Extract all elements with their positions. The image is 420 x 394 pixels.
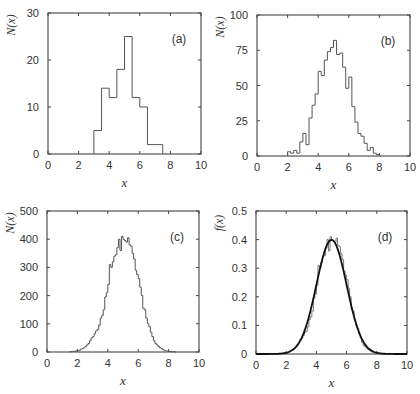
x-tick-label: 6 [344, 359, 350, 371]
y-tick-label: 0.3 [232, 262, 247, 274]
y-tick-label: 20 [27, 54, 39, 66]
panel-label: (a) [172, 32, 187, 46]
x-tick-label: 10 [401, 359, 413, 371]
x-tick-label: 4 [315, 161, 321, 173]
x-tick-label: 6 [346, 161, 352, 173]
y-tick-label: 0 [241, 348, 247, 360]
y-tick-label: 0.1 [232, 319, 247, 331]
x-tick-label: 0 [254, 161, 260, 173]
y-tick-label: 75 [236, 44, 248, 56]
panel-label: (c) [170, 230, 184, 244]
y-tick-label: 0 [32, 346, 38, 358]
x-tick-label: 0 [45, 159, 51, 171]
x-tick-label: 4 [106, 159, 112, 171]
x-tick-label: 2 [283, 359, 289, 371]
panel-d: 024681000.10.20.30.40.5xf(x)(d) [212, 205, 413, 390]
histogram-series [70, 236, 176, 352]
x-tick-label: 6 [135, 357, 141, 369]
x-tick-label: 2 [74, 357, 80, 369]
panel-a: 02468100102030xN(x)(a) [4, 7, 207, 190]
x-tick-label: 8 [167, 159, 173, 171]
y-tick-label: 0.2 [232, 291, 247, 303]
y-tick-label: 100 [20, 318, 38, 330]
x-tick-label: 8 [374, 359, 380, 371]
y-tick-label: 30 [27, 7, 39, 19]
y-tick-label: 300 [20, 261, 38, 273]
panel-b: 02468100255075100xN(x)(b) [213, 9, 416, 192]
y-axis-label: N(x) [3, 212, 17, 234]
x-axis-label: x [119, 373, 126, 388]
y-tick-label: 50 [236, 80, 248, 92]
x-tick-label: 10 [193, 357, 205, 369]
figure: 02468100102030xN(x)(a)02468100255075100x… [0, 0, 420, 394]
x-tick-label: 8 [166, 357, 172, 369]
gaussian-curve [256, 240, 407, 354]
panel-label: (d) [378, 230, 393, 244]
x-tick-label: 4 [105, 357, 111, 369]
y-tick-label: 400 [20, 233, 38, 245]
x-tick-label: 0 [253, 359, 259, 371]
x-axis-label: x [328, 375, 335, 390]
x-tick-label: 10 [195, 159, 207, 171]
x-tick-label: 2 [76, 159, 82, 171]
y-axis-label: N(x) [213, 16, 227, 38]
y-tick-label: 200 [20, 290, 38, 302]
x-tick-label: 0 [44, 357, 50, 369]
y-tick-label: 0.5 [232, 205, 247, 217]
x-tick-label: 4 [313, 359, 319, 371]
panel-label: (b) [381, 34, 396, 48]
y-tick-label: 0.4 [232, 234, 247, 246]
histogram-series [94, 37, 163, 155]
panel-c: 02468100100200300400500xN(x)(c) [3, 205, 205, 388]
x-tick-label: 10 [404, 161, 416, 173]
y-axis-label: N(x) [4, 14, 18, 36]
x-axis-label: x [121, 175, 128, 190]
y-tick-label: 25 [236, 115, 248, 127]
histogram-series [279, 237, 385, 354]
y-tick-label: 0 [242, 150, 248, 162]
x-tick-label: 2 [285, 161, 291, 173]
x-tick-label: 8 [376, 161, 382, 173]
x-tick-label: 6 [137, 159, 143, 171]
y-tick-label: 0 [33, 148, 39, 160]
y-tick-label: 100 [230, 9, 248, 21]
y-tick-label: 500 [20, 205, 38, 217]
y-axis-label: f(x) [212, 215, 226, 232]
x-axis-label: x [330, 177, 337, 192]
histogram-series [288, 40, 380, 156]
y-tick-label: 10 [27, 101, 39, 113]
